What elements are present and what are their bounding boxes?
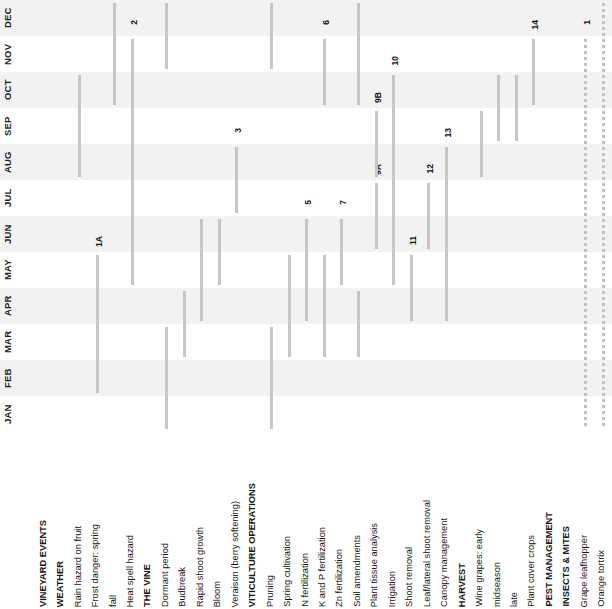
month-band <box>0 0 612 36</box>
row-label-canopy-management: Canopy management <box>440 518 449 607</box>
bar-segment <box>357 291 360 357</box>
bar-9b <box>375 111 378 177</box>
row-label-the-vine: THE VINE <box>143 564 152 607</box>
bar-1 <box>584 39 587 429</box>
bar-number-label: 10 <box>391 56 400 65</box>
row-label-orange-tortrix: Orange tortrix <box>597 550 606 607</box>
bar-number-label: 3 <box>234 128 243 133</box>
bar-segment <box>480 111 483 177</box>
row-label-weather: WEATHER <box>56 561 65 607</box>
row-label-veraison-berry-softening: Veraison (berry softening) <box>231 501 240 607</box>
row-label-viticulture-operations: VITICULTURE OPERATIONS <box>248 483 257 607</box>
month-band <box>0 72 612 108</box>
vineyard-calendar-chart: DECNOVOCTSEPAUGJULJUNMAYAPRMARFEBJAN 1A1… <box>0 0 612 609</box>
bar-9a <box>375 183 378 249</box>
row-label-frost-danger-spring: Frost danger: spring <box>91 524 100 607</box>
bar-segment <box>270 327 273 429</box>
bar-segment <box>165 3 168 69</box>
bar-3 <box>235 147 238 213</box>
bar-8 <box>357 3 360 105</box>
bar-segment <box>497 75 500 141</box>
row-label-leaf-lateral-shoot-removal: Leaf/lateral shoot removal <box>423 500 432 607</box>
month-label-dec: DEC <box>2 0 36 36</box>
bar-2 <box>131 39 134 285</box>
month-label-jan: JAN <box>2 396 36 432</box>
row-label-plant-tissue-analysis: Plant tissue analysis <box>370 523 379 607</box>
row-label-budbreak: Budbreak <box>178 567 187 607</box>
row-label-fall: fall <box>109 595 118 607</box>
month-label-oct: OCT <box>2 72 36 108</box>
bar-number-label: 1 <box>583 20 592 25</box>
bar-5 <box>305 219 308 321</box>
row-label-insects-mites: INSECTS & MITES <box>562 526 571 607</box>
bar-segment <box>165 327 168 429</box>
month-band <box>0 36 612 72</box>
row-label-vineyard-events: VINEYARD EVENTS <box>39 520 48 607</box>
bar-13 <box>445 147 448 321</box>
bar-number-label: 12 <box>426 164 435 173</box>
bar-2 <box>602 3 605 429</box>
bar-12 <box>427 183 430 249</box>
row-label-bloom: Bloom <box>213 581 222 607</box>
bar-number-label: 7 <box>339 200 348 205</box>
bar-7 <box>340 219 343 285</box>
month-band <box>0 180 612 216</box>
month-label-aug: AUG <box>2 144 36 180</box>
row-label-soil-amendments: Soil amendments <box>353 535 362 607</box>
bar-number-label: 14 <box>531 20 540 29</box>
row-label-rapid-shoot-growth: Rapid shoot growth <box>196 527 205 607</box>
bar-segment <box>78 75 81 177</box>
month-band <box>0 144 612 180</box>
bar-segment <box>218 219 221 285</box>
month-label-jun: JUN <box>2 216 36 252</box>
row-label-late: late <box>510 592 519 607</box>
bar-14 <box>532 39 535 105</box>
row-label-grape-leafhopper: Grape leafhopper <box>580 535 589 607</box>
row-label-pruning: Pruning <box>266 575 275 607</box>
bar-number-label: 6 <box>322 20 331 25</box>
row-label-plant-cover-crops: Plant cover crops <box>527 535 536 607</box>
month-label-sep: SEP <box>2 108 36 144</box>
row-label-shoot-removal: Shoot removal <box>405 547 414 607</box>
row-label-harvest: HARVEST <box>458 563 467 607</box>
bar-number-label: 2 <box>130 20 139 25</box>
bar-1b <box>113 3 116 105</box>
bar-number-label: 5 <box>304 200 313 205</box>
bar-number-label: 13 <box>444 128 453 137</box>
row-label-n-fertilization: N fertilization <box>301 553 310 607</box>
bar-10 <box>392 75 395 285</box>
row-label-pest-management: PEST MANAGEMENT <box>545 512 554 607</box>
bar-segment <box>183 291 186 357</box>
chart-plot-area: DECNOVOCTSEPAUGJULJUNMAYAPRMARFEBJAN 1A1… <box>0 0 612 432</box>
bar-segment <box>323 255 326 357</box>
bar-segment <box>288 255 291 357</box>
bar-4 <box>270 3 273 69</box>
row-label-wine-grapes-early: Wine grapes: early <box>475 529 484 607</box>
bar-number-label: 11 <box>409 236 418 245</box>
row-label-midseason: midseason <box>493 562 502 607</box>
bar-number-label: 9B <box>374 92 383 103</box>
row-label-dormant-period: Dormant period <box>161 543 170 607</box>
row-label-irrigation: Irrigation <box>388 571 397 607</box>
row-label-rain-hazard-on-fruit: Rain hazard on fruit <box>74 526 83 607</box>
bar-1a <box>96 255 99 393</box>
bar-number-label: 1A <box>95 236 104 247</box>
month-band <box>0 324 612 360</box>
row-label-spring-cultivation: Spring cultivation <box>283 536 292 607</box>
row-label-k-and-p-fertilization: K and P fertilization <box>318 527 327 607</box>
month-label-feb: FEB <box>2 360 36 396</box>
month-label-mar: MAR <box>2 324 36 360</box>
bar-segment <box>515 75 518 141</box>
row-label-heat-spell-hazard: Heat spell hazard <box>126 535 135 607</box>
month-label-nov: NOV <box>2 36 36 72</box>
row-label-zn-fertilization: Zn fertilization <box>335 549 344 607</box>
month-label-may: MAY <box>2 252 36 288</box>
month-label-apr: APR <box>2 288 36 324</box>
month-label-jul: JUL <box>2 180 36 216</box>
month-band <box>0 396 612 432</box>
bar-11 <box>410 255 413 321</box>
month-band <box>0 360 612 396</box>
month-band <box>0 108 612 144</box>
row-label-column: VINEYARD EVENTSWEATHERRain hazard on fru… <box>0 432 612 609</box>
bar-6 <box>323 39 326 105</box>
